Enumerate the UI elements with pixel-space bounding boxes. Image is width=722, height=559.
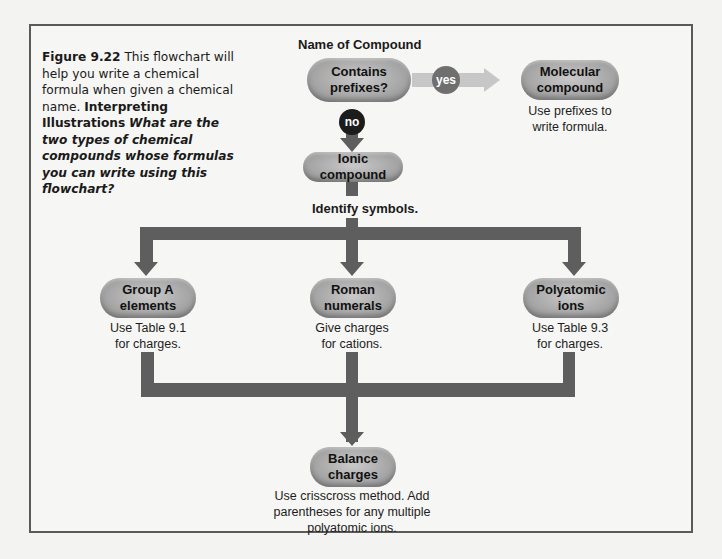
node-polyatomic-ions: Polyatomicions bbox=[523, 278, 619, 318]
connector-top-horizontal bbox=[140, 227, 581, 240]
molecular-note: Use prefixes towrite formula. bbox=[510, 103, 630, 135]
node-molecular-compound: Molecularcompound bbox=[521, 60, 619, 100]
no-badge: no bbox=[339, 109, 365, 135]
balance-note: Use crisscross method. Add parentheses f… bbox=[252, 488, 452, 536]
connector-ionic-stem-top bbox=[346, 182, 358, 196]
connector-mid-up bbox=[346, 352, 358, 442]
yes-badge: yes bbox=[432, 66, 460, 94]
arrow-right-to-molecular-icon bbox=[484, 68, 500, 92]
roman-note: Give chargesfor cations. bbox=[292, 320, 412, 352]
polyatomic-note: Use Table 9.3for charges. bbox=[510, 320, 630, 352]
arrow-down-to-ionic-icon bbox=[340, 138, 364, 152]
connector-right-down bbox=[568, 227, 581, 264]
arrow-down-to-group-a-icon bbox=[134, 262, 158, 276]
node-ionic-compound: Ionic compound bbox=[303, 152, 403, 182]
arrow-down-to-balance-icon bbox=[340, 432, 364, 446]
connector-mid-down bbox=[346, 240, 358, 264]
figure-caption: Figure 9.22 This flowchart will help you… bbox=[42, 49, 242, 198]
node-balance-charges: Balancecharges bbox=[310, 447, 396, 487]
connector-bottom-horizontal bbox=[141, 383, 575, 397]
connector-left-down bbox=[140, 227, 153, 264]
node-group-a-elements: Group Aelements bbox=[100, 278, 196, 318]
arrow-down-to-roman-icon bbox=[340, 262, 364, 276]
start-label: Name of Compound bbox=[298, 37, 422, 52]
node-roman-numerals: Romannumerals bbox=[310, 278, 396, 318]
ionic-note: Identify symbols. bbox=[312, 201, 418, 216]
figure-label: Figure 9.22 bbox=[42, 50, 121, 64]
decision-contains-prefixes: Containsprefixes? bbox=[307, 58, 411, 102]
group-a-note: Use Table 9.1for charges. bbox=[88, 320, 208, 352]
arrow-down-to-polyatomic-icon bbox=[562, 262, 586, 276]
